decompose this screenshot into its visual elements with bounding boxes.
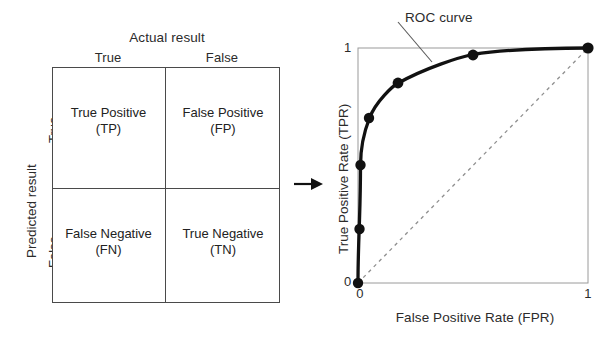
cell-abbrev: (FP) bbox=[166, 121, 280, 137]
cell-abbrev: (TP) bbox=[52, 121, 165, 137]
x-axis-title: False Positive Rate (FPR) bbox=[396, 310, 555, 325]
confusion-matrix-panel: Actual result True False Predicted resul… bbox=[0, 0, 320, 337]
matrix-cell-true-positive: True Positive (TP) bbox=[52, 105, 165, 137]
matrix-cell-false-negative: False Negative (FN) bbox=[52, 226, 165, 258]
roc-data-point bbox=[393, 78, 404, 89]
matrix-cell-true-negative: True Negative (TN) bbox=[166, 226, 280, 258]
cell-abbrev: (FN) bbox=[52, 242, 165, 258]
cell-label: False Positive bbox=[166, 105, 280, 121]
roc-plot-panel: ROC curve 1 0 0 1 False Positive Rate (F… bbox=[320, 0, 603, 337]
roc-data-point bbox=[354, 224, 364, 234]
roc-data-point bbox=[364, 113, 374, 123]
roc-annotation-leader-line bbox=[398, 22, 432, 62]
y-tick-label-0: 0 bbox=[344, 274, 351, 289]
matrix-border bbox=[52, 67, 280, 303]
matrix-cell-false-positive: False Positive (FP) bbox=[166, 105, 280, 137]
cell-abbrev: (TN) bbox=[166, 242, 280, 258]
roc-data-point bbox=[355, 160, 365, 170]
column-header-true: True bbox=[95, 50, 122, 65]
y-axis-title: True Positive Rate (TPR) bbox=[336, 104, 351, 254]
roc-data-point bbox=[468, 50, 479, 61]
roc-curve-annotation: ROC curve bbox=[405, 10, 473, 25]
matrix-horizontal-divider bbox=[52, 188, 280, 189]
x-tick-label-1: 1 bbox=[584, 286, 591, 301]
predicted-result-title: Predicted result bbox=[24, 164, 39, 258]
y-tick-label-1: 1 bbox=[344, 40, 351, 55]
cell-label: True Negative bbox=[166, 226, 280, 242]
column-header-false: False bbox=[206, 50, 238, 65]
cell-label: True Positive bbox=[52, 105, 165, 121]
x-tick-label-0: 0 bbox=[356, 286, 363, 301]
chance-diagonal-line bbox=[358, 48, 588, 283]
cell-label: False Negative bbox=[52, 226, 165, 242]
roc-data-point bbox=[582, 42, 593, 53]
figure-root: Actual result True False Predicted resul… bbox=[0, 0, 603, 337]
actual-result-title: Actual result bbox=[129, 30, 205, 45]
matrix-vertical-divider bbox=[165, 67, 166, 303]
